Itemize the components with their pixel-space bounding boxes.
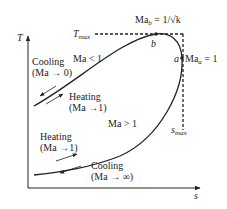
point-b-marker: [154, 32, 158, 36]
arrow-lower-heating: [56, 154, 77, 161]
supersonic-region-label: Ma > 1: [108, 118, 137, 129]
point-b-annotation: Mab = 1/√k: [135, 14, 181, 25]
point-a-label: a: [174, 53, 179, 64]
lower-cooling-label: Cooling(Ma → ∞): [91, 160, 133, 182]
s-axis-label: s: [194, 190, 198, 201]
upper-heating-label: Heating(Ma →1): [69, 91, 107, 113]
t-axis-label: T: [17, 32, 23, 43]
point-a-annotation: Maa = 1: [185, 53, 217, 64]
rayleigh-curve: [34, 34, 182, 175]
subsonic-region-label: Ma < 1: [73, 53, 102, 64]
lower-heating-label: Heating(Ma →1): [40, 131, 78, 153]
s-max-label: smax: [171, 124, 187, 135]
arrow-lower-cooling: [60, 166, 81, 173]
t-max-label: Tmax: [73, 28, 90, 39]
point-b-label: b: [151, 38, 156, 49]
arrow-upper-heating: [46, 94, 63, 104]
upper-cooling-label: Cooling(Ma → 0): [32, 56, 72, 78]
point-a-marker: [180, 56, 184, 60]
